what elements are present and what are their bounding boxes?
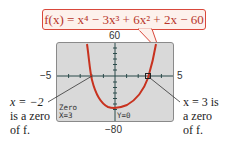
right-annotation: x = 3 is a zero of f. [183,95,219,137]
ymax-label: 60 [109,30,120,41]
x-readout: X=3 [59,112,73,120]
left-annotation: x = −2 is a zero of f. [10,95,50,137]
y-readout: Y=0 [117,112,131,120]
right-leader-line [150,78,180,102]
ymin-label: −80 [105,124,122,135]
left-leader-line [48,76,92,102]
xmin-label: −5 [40,70,51,81]
xmax-label: 5 [177,70,183,81]
